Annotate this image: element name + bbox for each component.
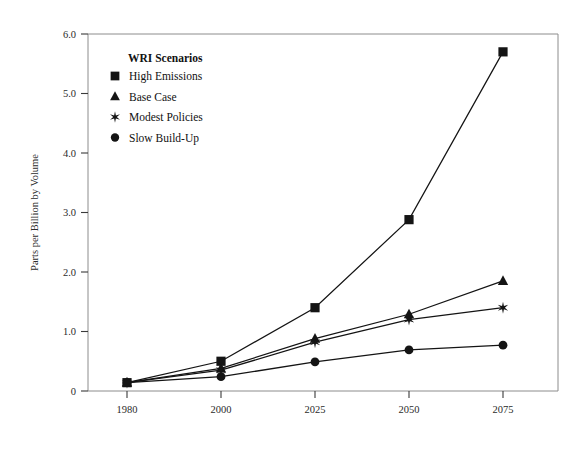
marker-square — [310, 303, 319, 312]
y-tick-label: 6.0 — [63, 29, 76, 40]
marker-circle — [111, 133, 119, 141]
y-tick-label: 5.0 — [63, 88, 76, 99]
marker-circle — [217, 372, 226, 381]
y-axis-title: Parts per Billion by Volume — [29, 154, 40, 271]
y-tick-label: 4.0 — [63, 148, 76, 159]
x-tick-label: 2025 — [305, 404, 326, 415]
x-tick-label: 2000 — [211, 404, 232, 415]
marker-square — [404, 215, 413, 224]
marker-square — [111, 72, 120, 81]
legend-item-label: Slow Build-Up — [129, 132, 199, 145]
legend-item-label: Base Case — [129, 91, 177, 103]
legend-item-label: High Emissions — [129, 70, 203, 83]
marker-square — [498, 47, 507, 56]
marker-circle — [405, 346, 414, 355]
y-axis-title-text: Parts per Billion by Volume — [29, 154, 40, 271]
marker-circle — [311, 357, 320, 366]
marker-circle — [499, 341, 508, 350]
legend-item-label: Modest Policies — [129, 111, 203, 123]
x-tick-label: 1980 — [117, 404, 138, 415]
y-tick-label: 3.0 — [63, 207, 76, 218]
legend-title-text: WRI Scenarios — [128, 52, 203, 64]
line-chart-canvas: 01.02.03.04.05.06.0 19802000202520502075… — [0, 0, 586, 449]
marker-circle — [123, 378, 132, 387]
y-tick-label: 0 — [71, 386, 76, 397]
chart-figure: 01.02.03.04.05.06.0 19802000202520502075… — [0, 0, 586, 449]
y-tick-label: 2.0 — [63, 267, 76, 278]
x-tick-label: 2050 — [399, 404, 420, 415]
y-tick-label: 1.0 — [63, 326, 76, 337]
x-tick-label: 2075 — [493, 404, 514, 415]
